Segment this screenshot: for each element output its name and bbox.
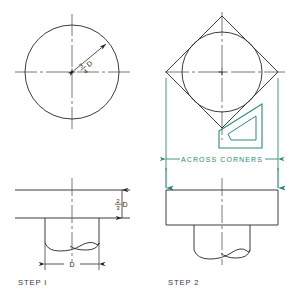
step1-radius-dimension: 3 4 D — [77, 57, 96, 76]
thickness-fraction-denominator: 3 — [116, 205, 120, 211]
step2-label: STEP 2 — [168, 278, 199, 287]
drawing-sheet: 3 4 D 2 3 D D STEP — [0, 0, 300, 299]
step2-elevation-view: STEP 2 — [166, 168, 278, 287]
thickness-fraction-numerator: 2 — [116, 198, 120, 204]
thickness-dimension-suffix: D — [123, 201, 128, 208]
step1-width-dimension-text: D — [69, 261, 74, 268]
step1-plan-view: 3 4 D — [15, 14, 130, 130]
set-square-tool-icon — [219, 104, 262, 148]
radius-dimension-suffix: D — [85, 59, 93, 68]
radius-fraction-denominator: 4 — [83, 68, 90, 75]
step1-label: STEP I — [18, 278, 47, 287]
step2-hole-point-curve — [221, 250, 250, 258]
step1-elevation-view: 2 3 D D STEP I — [15, 178, 130, 287]
step2-plan-view: ACROSS CORNERS — [165, 12, 285, 170]
across-corners-label: ACROSS CORNERS — [181, 156, 263, 163]
step1-thickness-dimension: 2 3 D — [115, 198, 128, 212]
technical-drawing-canvas: 3 4 D 2 3 D D STEP — [0, 0, 300, 299]
set-square-inner-cutout — [228, 116, 256, 140]
